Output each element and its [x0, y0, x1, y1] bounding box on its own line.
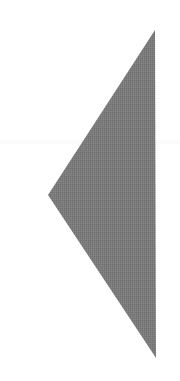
triangle-shape — [48, 30, 156, 358]
triangle-left-icon[interactable] — [0, 0, 180, 381]
canvas: Previous — [0, 0, 180, 381]
